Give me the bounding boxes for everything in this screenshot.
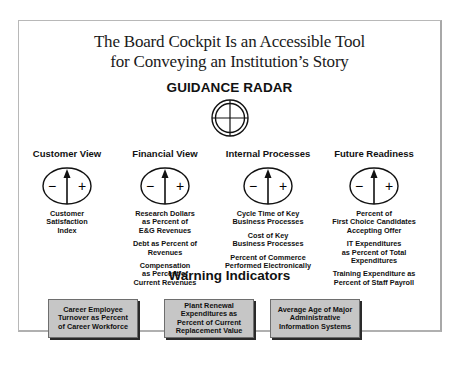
radar-crosshair-icon: [210, 98, 250, 138]
column-heading: Financial View: [110, 148, 220, 160]
warning-box-career-turnover: Career Employee Turnover as Percent of C…: [48, 299, 138, 338]
figure-title: The Board Cockpit Is an Accessible Tool …: [19, 32, 440, 72]
warning-indicators-label: Warning Indicators: [19, 268, 440, 283]
svg-text:−: −: [48, 178, 56, 194]
gauge-dial-icon: − +: [242, 166, 294, 206]
metric-it-expenditures: IT Expenditures as Percent of Total Expe…: [319, 240, 429, 265]
title-line-2: for Conveying an Institution’s Story: [19, 52, 440, 72]
gauge-dial-icon: − +: [348, 166, 400, 206]
column-heading: Internal Processes: [213, 148, 323, 160]
metric-customer-satisfaction: Customer Satisfaction Index: [12, 210, 122, 235]
column-heading: Customer View: [12, 148, 122, 160]
metric-research-dollars: Research Dollars as Percent of E&G Reven…: [110, 210, 220, 235]
svg-text:+: +: [176, 178, 184, 194]
svg-text:−: −: [355, 178, 363, 194]
metric-debt: Debt as Percent of Revenues: [110, 240, 220, 257]
column-internal-processes: Internal Processes − + Cycle Time of Key…: [213, 148, 323, 270]
column-financial-view: Financial View − + Research Dollars as P…: [110, 148, 220, 287]
column-customer-view: Customer View − + Customer Satisfaction …: [12, 148, 122, 235]
column-future-readiness: Future Readiness − + Percent of First Ch…: [319, 148, 429, 287]
svg-text:+: +: [78, 178, 86, 194]
gauge-dial-icon: − +: [41, 166, 93, 206]
warning-box-info-systems-age: Average Age of Major Administrative Info…: [270, 299, 360, 338]
svg-text:−: −: [249, 178, 257, 194]
metric-first-choice-candidates: Percent of First Choice Candidates Accep…: [319, 210, 429, 235]
warning-box-plant-renewal: Plant Renewal Expenditures as Percent of…: [164, 299, 254, 338]
metric-cost-processes: Cost of Key Business Processes: [213, 232, 323, 249]
title-line-1: The Board Cockpit Is an Accessible Tool: [19, 32, 440, 52]
svg-text:−: −: [146, 178, 154, 194]
metric-cycle-time: Cycle Time of Key Business Processes: [213, 210, 323, 227]
figure-frame: The Board Cockpit Is an Accessible Tool …: [18, 20, 442, 332]
gauge-dial-icon: − +: [139, 166, 191, 206]
svg-text:+: +: [385, 178, 393, 194]
guidance-radar-label: GUIDANCE RADAR: [19, 80, 440, 95]
svg-text:+: +: [279, 178, 287, 194]
column-heading: Future Readiness: [319, 148, 429, 160]
